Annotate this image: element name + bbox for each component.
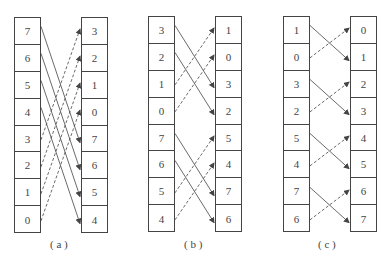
solid-arrow [175,133,214,195]
arrow-layer [0,0,390,261]
solid-arrow [175,52,214,114]
dashed-arrow [41,83,80,194]
dashed-arrow [41,29,80,140]
dashed-arrow [310,28,349,58]
solid-arrow [175,160,214,222]
solid-arrow [310,79,349,114]
solid-arrow [310,133,349,168]
dashed-arrow [41,56,80,167]
solid-arrow [310,187,349,222]
dashed-arrow [175,28,214,85]
dashed-arrow [41,110,80,221]
